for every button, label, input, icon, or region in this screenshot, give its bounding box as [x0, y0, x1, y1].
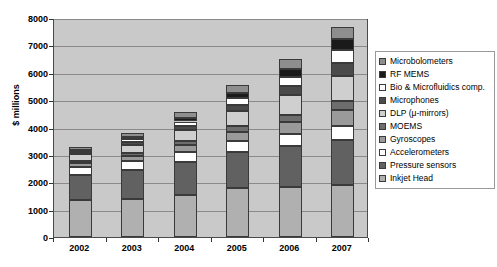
legend-item-label: Accelerometers	[390, 148, 449, 157]
x-tick-mark	[263, 238, 264, 242]
bar-segment	[279, 86, 302, 95]
bar-segment	[331, 110, 354, 125]
y-tick-label: 0	[6, 233, 48, 243]
plot-area	[53, 19, 368, 238]
bar-segment	[226, 85, 249, 93]
gridline	[54, 74, 367, 75]
legend-item[interactable]: Microbolometers	[379, 55, 492, 68]
x-tick-label: 2005	[217, 243, 257, 253]
bar-segment	[331, 27, 354, 40]
bar-segment	[279, 122, 302, 134]
bar-stack	[279, 18, 302, 237]
gridline	[54, 156, 367, 157]
bar-segment	[174, 112, 197, 118]
bar-segment	[279, 146, 302, 187]
bar-segment	[226, 188, 249, 237]
x-tick-label: 2004	[164, 243, 204, 253]
gridline	[54, 183, 367, 184]
bar-segment	[174, 195, 197, 237]
bar-segment	[174, 145, 197, 152]
legend-swatch-icon	[379, 123, 386, 130]
bar-segment	[331, 140, 354, 185]
bar-segment	[331, 39, 354, 50]
legend-item-label: RF MEMS	[390, 70, 429, 79]
gridline	[54, 211, 367, 212]
bar-segment	[226, 126, 249, 131]
y-tick-label: 5000	[6, 96, 48, 106]
bar-segment	[174, 141, 197, 145]
legend-item[interactable]: DLP (μ-mirrors)	[379, 107, 492, 120]
x-tick-mark	[316, 238, 317, 242]
legend-swatch-icon	[379, 71, 386, 78]
gridline	[54, 19, 367, 20]
legend-swatch-icon	[379, 162, 386, 169]
x-tick-label: 2003	[112, 243, 152, 253]
legend-item-label: Microphones	[390, 96, 439, 105]
bar-segment	[174, 152, 197, 162]
bar-segment	[331, 126, 354, 140]
bar-segment	[69, 154, 92, 161]
legend-swatch-icon	[379, 58, 386, 65]
x-tick-label: 2007	[322, 243, 362, 253]
legend-swatch-icon	[379, 175, 386, 182]
bar-segment	[279, 69, 302, 76]
y-tick-label: 7000	[6, 41, 48, 51]
bar-segment	[69, 200, 92, 237]
bar-segment	[279, 134, 302, 147]
bar-segment	[69, 163, 92, 167]
bar-segment	[226, 132, 249, 141]
bar-segment	[69, 167, 92, 175]
legend-item-label: Inkjet Head	[390, 174, 433, 183]
bar-segment	[121, 153, 144, 156]
bar-segment	[121, 156, 144, 161]
legend-item[interactable]: Pressure sensors	[379, 159, 492, 172]
bar-stack	[226, 18, 249, 237]
gridline	[54, 129, 367, 130]
gridline	[54, 101, 367, 102]
bar-stack	[121, 18, 144, 237]
x-tick-mark	[368, 238, 369, 242]
legend-item[interactable]: Gyroscopes	[379, 133, 492, 146]
bar-segment	[331, 101, 354, 110]
bar-segment	[331, 50, 354, 63]
legend-item[interactable]: Microphones	[379, 94, 492, 107]
bar-segment	[279, 115, 302, 122]
bar-segment	[121, 133, 144, 137]
legend-item-label: Microbolometers	[390, 57, 453, 66]
legend-item[interactable]: RF MEMS	[379, 68, 492, 81]
x-tick-mark	[106, 238, 107, 242]
x-tick-mark	[53, 238, 54, 242]
bar-segment	[226, 141, 249, 152]
legend-swatch-icon	[379, 110, 386, 117]
bar-segment	[331, 63, 354, 76]
bar-segment	[331, 76, 354, 101]
bar-segment	[121, 170, 144, 199]
legend-item-label: MOEMS	[390, 122, 422, 131]
legend-item[interactable]: Bio & Microfluidics comp.	[379, 81, 492, 94]
bar-segment	[279, 95, 302, 114]
bar-stack	[174, 18, 197, 237]
y-tick-label: 6000	[6, 69, 48, 79]
x-tick-mark	[158, 238, 159, 242]
legend-item[interactable]: Inkjet Head	[379, 172, 492, 185]
bar-segment	[69, 147, 92, 150]
legend-swatch-icon	[379, 149, 386, 156]
legend-item[interactable]: MOEMS	[379, 120, 492, 133]
bar-segment	[226, 105, 249, 111]
bar-segment	[174, 118, 197, 121]
bar-segment	[121, 137, 144, 139]
legend-swatch-icon	[379, 136, 386, 143]
bar-segment	[279, 59, 302, 69]
bar-segment	[121, 142, 144, 144]
y-tick-label: 4000	[6, 124, 48, 134]
legend-item-label: DLP (μ-mirrors)	[390, 109, 449, 118]
legend-item-label: Pressure sensors	[390, 161, 456, 170]
x-tick-label: 2002	[59, 243, 99, 253]
chart-figure: $ millions 01000200030004000500060007000…	[0, 0, 497, 267]
bar-segment	[69, 175, 92, 200]
bar-segment	[226, 111, 249, 126]
bar-segment	[174, 122, 197, 127]
y-tick-label: 2000	[6, 178, 48, 188]
legend-item[interactable]: Accelerometers	[379, 146, 492, 159]
legend-item-label: Bio & Microfluidics comp.	[390, 83, 485, 92]
